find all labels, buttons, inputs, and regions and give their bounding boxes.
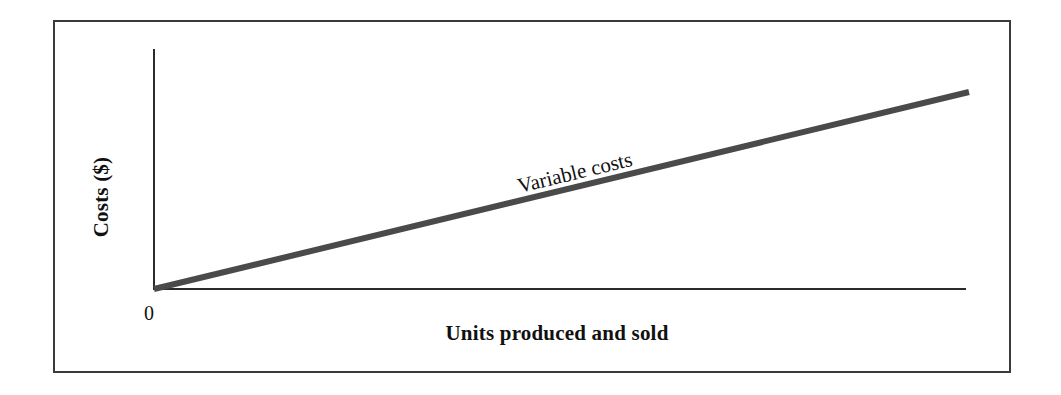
- y-axis-title: Costs ($): [89, 157, 114, 238]
- series-label-variable-costs: Variable costs: [515, 147, 635, 199]
- chart-frame: Costs ($) Units produced and sold 0 Vari…: [53, 20, 1011, 373]
- variable-costs-line-path: [154, 92, 969, 289]
- origin-label: 0: [144, 303, 154, 323]
- x-axis-line: [153, 288, 966, 290]
- y-axis-line: [153, 49, 155, 290]
- figure-root: Costs ($) Units produced and sold 0 Vari…: [0, 0, 1061, 395]
- x-axis-title: Units produced and sold: [445, 321, 668, 346]
